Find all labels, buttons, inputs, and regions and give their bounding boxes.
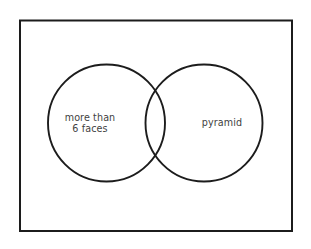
venn-diagram-canvas: more than 6 faces pyramid [0,0,311,249]
universe-rectangle [20,21,292,232]
venn-diagram-svg [0,0,311,249]
